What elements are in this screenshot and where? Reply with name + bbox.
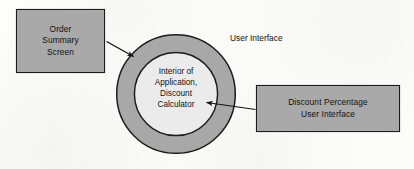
discount-percentage-user-interface-label: Discount Percentage User Interface: [288, 97, 368, 119]
discount-percentage-user-interface-box[interactable]: Discount Percentage User Interface: [256, 85, 400, 132]
user-interface-ring-label: User Interface: [230, 33, 283, 44]
order-summary-screen-label: Order Summary Screen: [42, 24, 79, 58]
arrow-order-summary-to-ring: [107, 42, 134, 57]
diagram-canvas: Order Summary Screen Discount Percentage…: [0, 0, 414, 169]
order-summary-screen-box[interactable]: Order Summary Screen: [16, 9, 105, 73]
interior-of-application-label: Interior of Application, Discount Calcul…: [138, 66, 214, 110]
